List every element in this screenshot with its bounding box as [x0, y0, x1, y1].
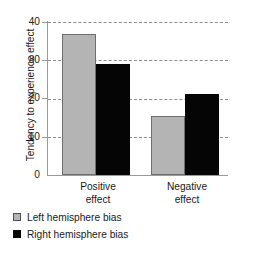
legend-label-left-hemisphere: Left hemisphere bias [27, 212, 122, 223]
bar-positive-right-hemisphere [96, 64, 130, 175]
legend-item-left-hemisphere: Left hemisphere bias [13, 210, 128, 224]
y-tick-label-10: 10 [16, 132, 40, 142]
legend-label-right-hemisphere: Right hemisphere bias [27, 229, 128, 240]
bar-negative-left-hemisphere [151, 116, 185, 176]
y-tick-label-20: 20 [16, 93, 40, 103]
chart-legend: Left hemisphere bias Right hemisphere bi… [13, 210, 128, 244]
y-tick-label-group-0: 0 [12, 170, 40, 180]
x-category-label-negative: Negative effect [132, 181, 242, 206]
y-tick-label-0: 0 [16, 170, 40, 180]
gridline-40 [48, 22, 228, 23]
plot-area [48, 22, 228, 175]
y-tick-label-group-10: 10 [12, 132, 40, 142]
bar-chart-figure: Tendency to experience effect 40 30 20 1… [0, 0, 255, 254]
y-tick-label-group-40: 40 [12, 17, 40, 27]
x-axis-line [47, 175, 228, 176]
x-category-label-negative-line2: effect [132, 194, 242, 207]
y-tick-label-group-20: 20 [12, 93, 40, 103]
legend-swatch-gray-icon [13, 213, 21, 221]
x-category-label-negative-line1: Negative [132, 181, 242, 194]
y-tick-label-40: 40 [16, 17, 40, 27]
y-tick-label-group-30: 30 [12, 55, 40, 65]
legend-item-right-hemisphere: Right hemisphere bias [13, 227, 128, 241]
bar-positive-left-hemisphere [62, 34, 96, 176]
y-tick-label-30: 30 [16, 55, 40, 65]
legend-swatch-black-icon [13, 230, 21, 238]
bar-negative-right-hemisphere [185, 94, 219, 176]
